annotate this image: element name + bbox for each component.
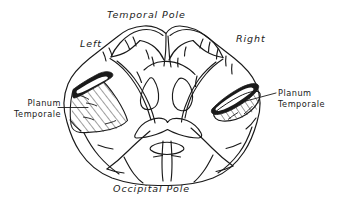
- brainstem-stalk-left: [162, 141, 163, 181]
- right-gyral-tick-6: [185, 47, 187, 56]
- corpus-callosum-upper: [144, 61, 195, 74]
- left-gyral-tick-5: [146, 50, 149, 59]
- right-occipital-sulcus-3: [194, 155, 213, 182]
- callout-planum-temporale-left: Planum Temporale: [14, 98, 61, 120]
- brainstem-notch-right: [172, 156, 181, 158]
- left-gyral-tick-2: [133, 37, 136, 46]
- callout-right-line-2: Temporale: [278, 99, 325, 110]
- left-occipital-sulcus-1: [107, 131, 150, 169]
- planum-temporale-right-group[interactable]: [211, 84, 260, 121]
- figure-root: Temporal Pole Left Right Occipital Pole …: [0, 0, 338, 204]
- right-gyral-tick-1: [200, 39, 203, 48]
- interhemispheric-fissure-right: [168, 36, 171, 67]
- left-gyral-tick-4: [109, 48, 112, 56]
- left-occipital-sulcus-2: [84, 133, 119, 174]
- label-temporal-pole: Temporal Pole: [107, 9, 186, 21]
- right-gyral-tick-2: [209, 42, 211, 52]
- planum-temporale-left-group[interactable]: [70, 72, 127, 133]
- brainstem-upper: [150, 142, 184, 154]
- right-gyral-tick-3: [217, 49, 219, 59]
- right-lower-margin-fold: [246, 118, 256, 129]
- left-gyral-tick-3: [103, 52, 106, 61]
- septum-left-line: [137, 72, 142, 83]
- label-right-hemisphere: Right: [236, 33, 266, 45]
- right-temporal-sulcus-a: [169, 41, 193, 61]
- callout-right-line-1: Planum: [278, 88, 325, 99]
- label-left-hemisphere: Left: [80, 38, 102, 50]
- left-occipital-sulcus-3: [124, 157, 143, 183]
- brainstem-stalk-right: [171, 141, 172, 181]
- callout-planum-temporale-right: Planum Temporale: [278, 88, 325, 110]
- callout-left-line-1: Planum: [14, 98, 61, 109]
- right-lateral-ventricle: [172, 78, 192, 111]
- callout-left-line-2: Temporale: [14, 109, 61, 120]
- left-occipital-sulcus-5: [98, 145, 113, 149]
- brainstem-notch-left: [154, 156, 163, 158]
- right-occipital-sulcus-2: [218, 127, 252, 173]
- left-gyral-tick-1: [125, 40, 130, 49]
- right-insular-band-inner: [182, 62, 217, 122]
- right-occipital-sulcus-5: [226, 143, 241, 149]
- right-occipital-sulcus-1: [191, 128, 233, 166]
- label-occipital-pole: Occipital Pole: [113, 183, 190, 195]
